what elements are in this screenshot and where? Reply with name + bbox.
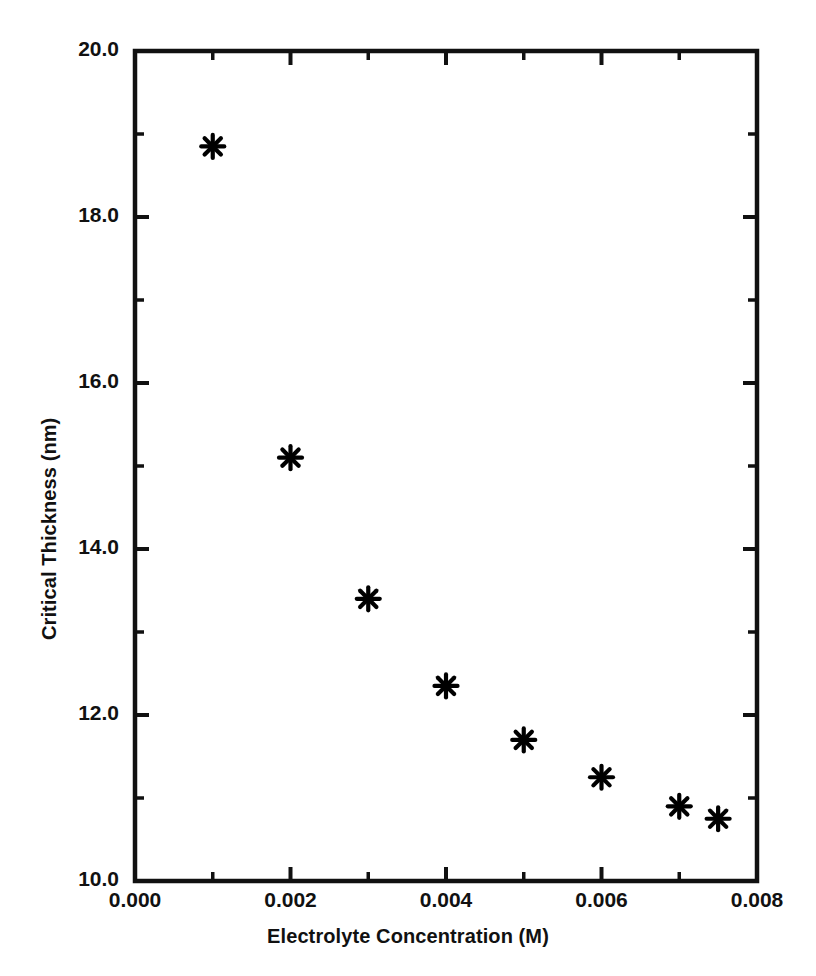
y-axis-label: Critical Thickness (nm) bbox=[38, 418, 61, 640]
data-point-marker bbox=[512, 728, 535, 751]
data-point-markers bbox=[201, 135, 729, 830]
data-point-marker bbox=[590, 766, 613, 789]
plot-canvas bbox=[0, 0, 816, 976]
scatter-plot-figure: 20.018.016.014.012.010.0 0.0000.0020.004… bbox=[0, 0, 816, 976]
x-tick-label: 0.008 bbox=[697, 888, 816, 912]
y-tick-label: 20.0 bbox=[9, 37, 119, 61]
y-tick-label: 12.0 bbox=[9, 701, 119, 725]
x-tick-label: 0.002 bbox=[231, 888, 351, 912]
data-point-marker bbox=[201, 135, 224, 158]
x-axis-label: Electrolyte Concentration (M) bbox=[0, 925, 816, 948]
y-tick-label: 16.0 bbox=[9, 369, 119, 393]
data-point-marker bbox=[357, 587, 380, 610]
x-tick-label: 0.006 bbox=[542, 888, 662, 912]
plot-frame bbox=[135, 51, 757, 881]
data-point-marker bbox=[435, 674, 458, 697]
x-tick-label: 0.004 bbox=[386, 888, 506, 912]
data-point-marker bbox=[279, 446, 302, 469]
axis-frame bbox=[135, 51, 757, 881]
x-tick-label: 0.000 bbox=[75, 888, 195, 912]
data-point-marker bbox=[668, 795, 691, 818]
data-point-marker bbox=[707, 807, 730, 830]
y-tick-label: 14.0 bbox=[9, 535, 119, 559]
tick-marks bbox=[135, 51, 757, 881]
y-tick-label: 18.0 bbox=[9, 203, 119, 227]
